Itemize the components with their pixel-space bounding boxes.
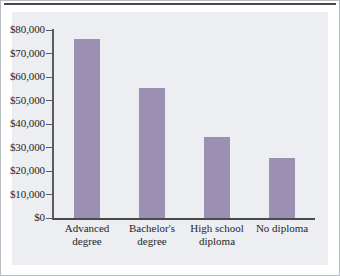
x-axis-category-label: Advanced degree: [55, 222, 120, 248]
y-axis-tick-label: $40,000: [0, 117, 45, 129]
top-rule: [4, 3, 336, 5]
y-axis-tick: [46, 124, 53, 125]
y-axis-tick: [46, 171, 53, 172]
x-axis-category-label: Bachelor's degree: [120, 222, 185, 248]
x-axis-category-label: High school diploma: [185, 222, 250, 248]
bar: [74, 39, 100, 218]
y-axis-tick-labels: $0$10,000$20,000$30,000$40,000$50,000$60…: [0, 1, 45, 276]
y-axis-tick: [46, 194, 53, 195]
y-axis-tick-label: $70,000: [0, 47, 45, 59]
y-axis-tick-label: $60,000: [0, 70, 45, 82]
y-axis-tick-label: $0: [0, 211, 45, 223]
x-axis-category-label: No diploma: [250, 222, 315, 235]
x-axis-line: [52, 218, 315, 220]
y-axis-tick: [46, 147, 53, 148]
figure-frame: $0$10,000$20,000$30,000$40,000$50,000$60…: [0, 0, 340, 276]
y-axis-tick: [46, 77, 53, 78]
bar: [204, 137, 230, 218]
y-axis-tick-label: $50,000: [0, 94, 45, 106]
y-axis-tick: [46, 53, 53, 54]
y-axis-tick: [46, 218, 53, 219]
y-axis-tick-label: $20,000: [0, 164, 45, 176]
y-axis-tick-label: $30,000: [0, 141, 45, 153]
bar: [269, 158, 295, 218]
y-axis-tick-label: $80,000: [0, 23, 45, 35]
y-axis-tick-label: $10,000: [0, 188, 45, 200]
y-axis-tick: [46, 100, 53, 101]
y-axis-tick: [46, 30, 53, 31]
bar: [139, 88, 165, 218]
